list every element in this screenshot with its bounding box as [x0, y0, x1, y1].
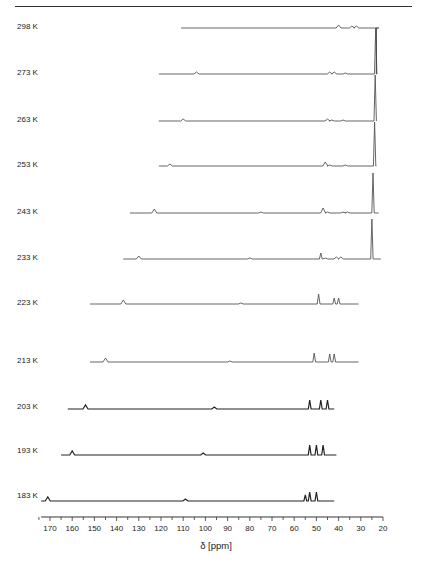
x-tick-label: 170 — [43, 524, 56, 533]
spectrum-trace — [159, 75, 377, 121]
spectrum-trace — [61, 445, 336, 455]
temperature-label: 223 K — [17, 298, 38, 307]
x-axis-label: δ [ppm] — [200, 540, 232, 551]
x-tick-label: 130 — [132, 524, 145, 533]
temperature-label: 263 K — [17, 115, 38, 124]
temperature-label: 298 K — [17, 22, 38, 31]
x-tick-label: 20 — [379, 524, 388, 533]
temperature-label: 183 K — [17, 491, 38, 500]
x-tick-label: 30 — [356, 524, 365, 533]
x-tick-label: 50 — [312, 524, 321, 533]
spectrum-trace — [68, 400, 334, 409]
temperature-label: 213 K — [17, 356, 38, 365]
x-tick-label: 80 — [245, 524, 254, 533]
x-tick-label: 110 — [177, 524, 190, 533]
spectrum-trace — [90, 294, 359, 304]
temperature-label: 243 K — [17, 207, 38, 216]
nmr-stacked-plot — [0, 0, 421, 565]
x-tick-label: 100 — [199, 524, 212, 533]
x-tick-label: 90 — [223, 524, 232, 533]
spectrum-trace — [41, 492, 334, 501]
spectrum-trace — [123, 219, 381, 259]
x-tick-label: 120 — [154, 524, 167, 533]
temperature-label: 193 K — [17, 446, 38, 455]
x-tick-label: 160 — [66, 524, 79, 533]
spectrum-trace — [181, 25, 379, 28]
x-tick-label: 70 — [268, 524, 277, 533]
x-tick-label: 150 — [88, 524, 101, 533]
temperature-label: 273 K — [17, 68, 38, 77]
x-tick-label: 140 — [110, 524, 123, 533]
spectrum-trace — [159, 122, 376, 166]
temperature-label: 203 K — [17, 402, 38, 411]
temperature-label: 253 K — [17, 160, 38, 169]
spectrum-trace — [90, 353, 359, 362]
x-tick-label: 60 — [290, 524, 299, 533]
spectrum-trace — [159, 28, 377, 74]
temperature-label: 233 K — [17, 253, 38, 262]
spectrum-trace — [130, 173, 379, 213]
x-tick-label: 40 — [334, 524, 343, 533]
